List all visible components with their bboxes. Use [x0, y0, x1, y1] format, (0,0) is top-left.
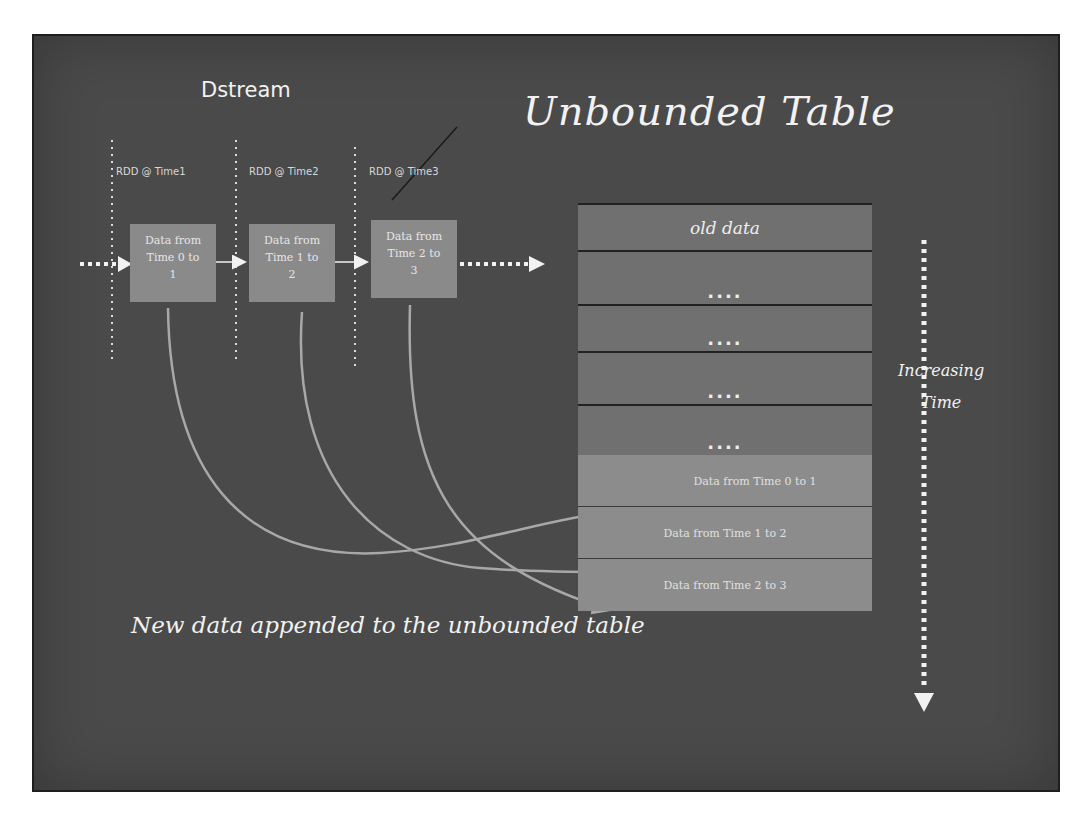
dstream-label: Dstream [201, 78, 291, 102]
table-row-new-data: Data from Time 0 to 1 [578, 455, 872, 507]
rdd-label-2: RDD @ Time2 [249, 166, 319, 177]
rdd-box-text: 3 [371, 262, 457, 279]
time-label-line: Time [898, 387, 984, 419]
ellipsis-text: .... [578, 432, 872, 453]
rdd-box-text: 2 [249, 266, 335, 283]
rdd-box-text: 1 [130, 266, 216, 283]
ellipsis-text: .... [578, 281, 872, 302]
rdd-box-2: Data from Time 1 to 2 [249, 224, 335, 302]
rdd-label-3: RDD @ Time3 [369, 166, 439, 177]
rdd-box-text: Time 1 to [249, 249, 335, 266]
rdd-label-1: RDD @ Time1 [116, 166, 186, 177]
table-row-old-data: old data [578, 203, 872, 252]
append-arrows [168, 305, 610, 610]
rdd-box-1: Data from Time 0 to 1 [130, 224, 216, 302]
table-row-new-data: Data from Time 2 to 3 [578, 559, 872, 611]
ellipsis-text: .... [578, 381, 872, 402]
table-row-ellipsis: .... [578, 306, 872, 353]
table-row-ellipsis: .... [578, 353, 872, 406]
pointer-line [392, 127, 457, 200]
rdd-box-3: Data from Time 2 to 3 [371, 220, 457, 298]
table-row-new-data: Data from Time 1 to 2 [578, 507, 872, 559]
rdd-box-text: Data from [249, 232, 335, 249]
rdd-box-text: Time 2 to [371, 245, 457, 262]
time-label-line: Increasing [898, 355, 984, 387]
rdd-box-text: Data from [130, 232, 216, 249]
diagram-title: Unbounded Table [523, 88, 896, 134]
table-row-ellipsis: .... [578, 406, 872, 455]
unbounded-table: old data .... .... .... .... Data from T… [578, 203, 872, 611]
caption: New data appended to the unbounded table [131, 612, 645, 638]
increasing-time-label: Increasing Time [898, 355, 984, 419]
table-row-ellipsis: .... [578, 252, 872, 306]
ellipsis-text: .... [578, 328, 872, 349]
rdd-box-text: Data from [371, 228, 457, 245]
rdd-box-text: Time 0 to [130, 249, 216, 266]
